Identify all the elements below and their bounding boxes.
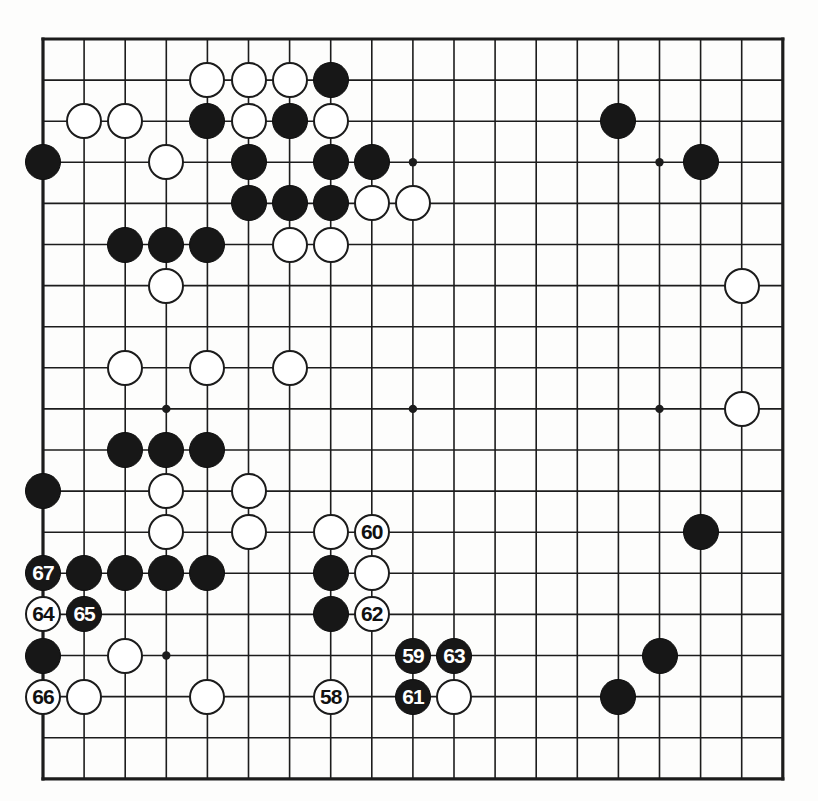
white-stone[interactable] <box>189 350 225 386</box>
black-stone[interactable] <box>354 144 390 180</box>
white-stone[interactable] <box>231 103 267 139</box>
move-number-label: 65 <box>73 602 94 626</box>
move-number-label: 61 <box>402 685 423 709</box>
white-stone[interactable] <box>272 350 308 386</box>
move-number-label: 67 <box>32 561 53 585</box>
black-stone[interactable] <box>25 473 61 509</box>
move-number-63[interactable]: 63 <box>436 638 472 674</box>
move-number-label: 60 <box>361 520 382 544</box>
move-number-61[interactable]: 61 <box>395 679 431 715</box>
star-point <box>655 405 663 413</box>
move-number-label: 63 <box>443 644 464 668</box>
white-stone[interactable] <box>231 514 267 550</box>
black-stone[interactable] <box>313 144 349 180</box>
black-stone[interactable] <box>683 144 719 180</box>
white-stone[interactable] <box>189 679 225 715</box>
black-stone[interactable] <box>313 185 349 221</box>
black-stone[interactable] <box>642 638 678 674</box>
black-stone[interactable] <box>272 185 308 221</box>
black-stone[interactable] <box>313 555 349 591</box>
white-stone[interactable] <box>231 473 267 509</box>
white-stone[interactable] <box>107 638 143 674</box>
move-number-label: 58 <box>320 685 341 709</box>
black-stone[interactable] <box>231 185 267 221</box>
move-number-62[interactable]: 62 <box>354 596 390 632</box>
black-stone[interactable] <box>25 638 61 674</box>
white-stone[interactable] <box>272 62 308 98</box>
star-point <box>655 158 663 166</box>
white-stone[interactable] <box>724 391 760 427</box>
diagram-page: 58596061626364656667 <box>0 0 818 801</box>
black-stone[interactable] <box>148 227 184 263</box>
star-point <box>162 405 170 413</box>
white-stone[interactable] <box>66 679 102 715</box>
move-number-66[interactable]: 66 <box>25 679 61 715</box>
white-stone[interactable] <box>313 514 349 550</box>
move-number-label: 62 <box>361 602 382 626</box>
white-stone[interactable] <box>148 268 184 304</box>
black-stone[interactable] <box>231 144 267 180</box>
black-stone[interactable] <box>313 62 349 98</box>
white-stone[interactable] <box>313 103 349 139</box>
black-stone[interactable] <box>600 679 636 715</box>
black-stone[interactable] <box>272 103 308 139</box>
star-point <box>409 158 417 166</box>
move-number-60[interactable]: 60 <box>354 514 390 550</box>
black-stone[interactable] <box>189 227 225 263</box>
black-stone[interactable] <box>683 514 719 550</box>
move-number-58[interactable]: 58 <box>313 679 349 715</box>
star-point <box>162 651 170 659</box>
move-number-label: 59 <box>402 644 423 668</box>
move-number-label: 64 <box>32 602 53 626</box>
black-stone[interactable] <box>107 227 143 263</box>
white-stone[interactable] <box>724 268 760 304</box>
star-point <box>409 405 417 413</box>
move-number-label: 66 <box>32 685 53 709</box>
move-number-59[interactable]: 59 <box>395 638 431 674</box>
white-stone[interactable] <box>436 679 472 715</box>
white-stone[interactable] <box>272 227 308 263</box>
white-stone[interactable] <box>107 350 143 386</box>
white-stone[interactable] <box>354 555 390 591</box>
white-stone[interactable] <box>231 62 267 98</box>
black-stone[interactable] <box>313 596 349 632</box>
white-stone[interactable] <box>354 185 390 221</box>
white-stone[interactable] <box>313 227 349 263</box>
black-stone[interactable] <box>107 432 143 468</box>
